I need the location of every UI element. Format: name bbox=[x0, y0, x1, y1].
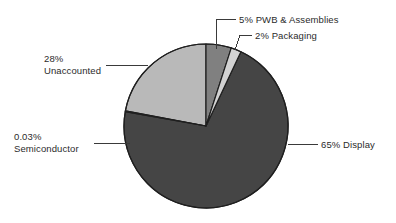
slice-label-display-text: 65% Display bbox=[321, 139, 375, 151]
slice-label-pwb-text: 5% PWB & Assemblies bbox=[239, 14, 339, 26]
slice-label-semiconductor-value: 0.03% bbox=[14, 131, 79, 143]
slice-label-unaccounted-value: 28% bbox=[44, 53, 101, 65]
pie-chart-figure: 5% PWB & Assemblies 2% Packaging 28% Una… bbox=[0, 0, 396, 223]
slice-label-semiconductor-name: Semiconductor bbox=[14, 143, 79, 155]
slice-label-pwb: 5% PWB & Assemblies bbox=[239, 14, 339, 26]
leader-line-packaging bbox=[235, 35, 252, 50]
pie-slices bbox=[124, 44, 288, 208]
slice-label-display: 65% Display bbox=[321, 139, 375, 151]
slice-label-packaging: 2% Packaging bbox=[255, 30, 317, 42]
slice-label-semiconductor: 0.03% Semiconductor bbox=[14, 131, 79, 154]
slice-label-packaging-text: 2% Packaging bbox=[255, 30, 317, 42]
slice-label-unaccounted: 28% Unaccounted bbox=[44, 53, 101, 76]
pie-chart-canvas bbox=[0, 0, 396, 223]
slice-label-unaccounted-name: Unaccounted bbox=[44, 65, 101, 77]
